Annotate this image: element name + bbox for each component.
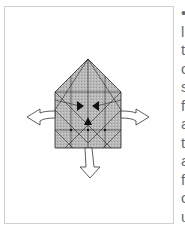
- text-fragment: c: [181, 189, 185, 208]
- text-fragment: c: [181, 60, 185, 79]
- text-fragment: a: [181, 115, 185, 134]
- text-fragment: t: [181, 41, 185, 60]
- text-fragment: l: [181, 23, 185, 42]
- text-fragment: f: [181, 97, 185, 116]
- text-fragment: s: [181, 78, 185, 97]
- down-arrow-icon: [80, 148, 100, 178]
- text-fragment: f: [181, 171, 185, 190]
- text-fragment: t: [181, 134, 185, 153]
- paper-shape: [55, 59, 121, 148]
- text-fragment: a: [181, 152, 185, 171]
- right-arrow-icon: [121, 109, 149, 125]
- origami-diagram: [0, 0, 185, 233]
- cropped-text-column: • l t c s f a t a f c u: [181, 4, 185, 226]
- left-arrow-icon: [27, 109, 55, 125]
- text-fragment: u: [181, 208, 185, 227]
- text-fragment: •: [181, 4, 185, 23]
